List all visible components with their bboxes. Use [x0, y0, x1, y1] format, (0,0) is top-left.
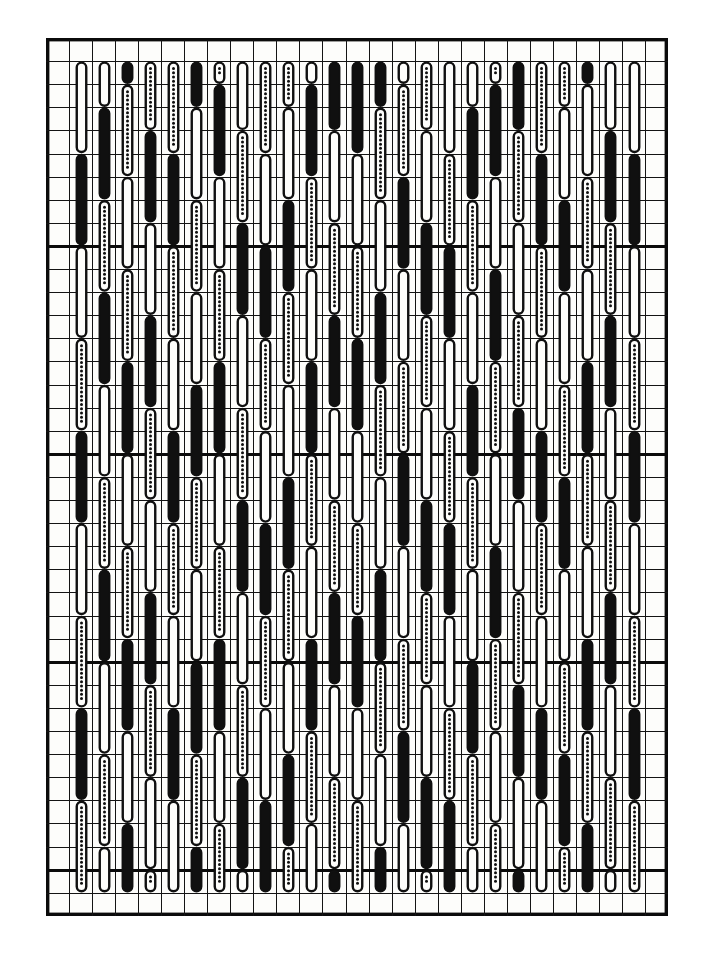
page-title: Stitch pattern grid diagram	[0, 21, 1, 22]
legend-dotted-label: beaded / dotted stitch	[0, 0, 1, 1]
page-root: Stitch pattern grid diagram solid filled…	[0, 0, 704, 962]
motif-label: vertical capsule stitch mark	[0, 0, 1, 1]
legend-hollow-label: open outline stitch	[0, 0, 1, 1]
legend-solid-label: solid filled stitch	[0, 0, 1, 1]
pattern-figure	[46, 38, 668, 916]
grid-lines	[46, 38, 668, 916]
